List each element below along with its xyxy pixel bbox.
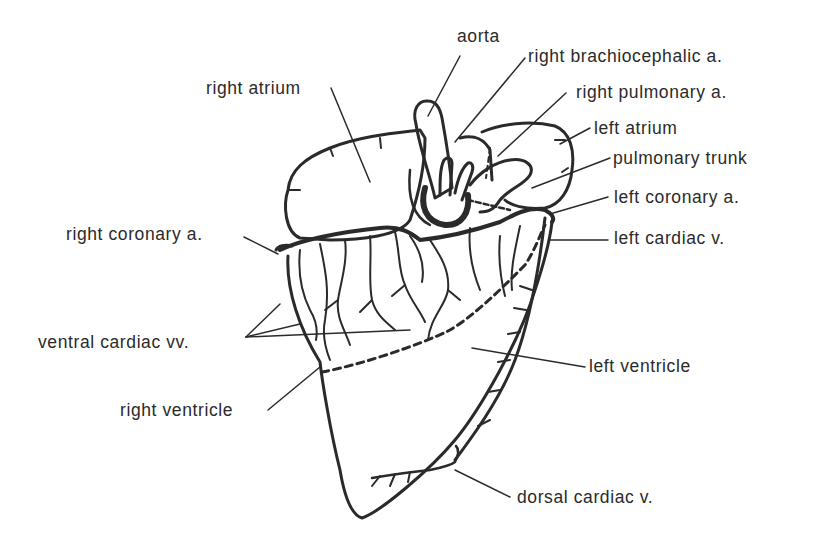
label-right-coronary-a: right coronary a. [66,226,203,244]
label-right-brachiocephalic-a: right brachiocephalic a. [528,48,722,66]
pulmonary-trunk-outline [470,160,531,212]
label-ventral-cardiac-vv: ventral cardiac vv. [38,334,189,352]
leader-lines [244,56,610,497]
ventral-cardiac-veins [299,226,520,360]
label-right-ventricle: right ventricle [120,402,233,420]
label-left-coronary-a: left coronary a. [614,189,739,207]
label-pulmonary-trunk: pulmonary trunk [613,150,747,168]
heart-diagram: aorta right brachiocephalic a. right pul… [0,0,813,542]
label-left-ventricle: left ventricle [589,358,691,376]
label-left-atrium: left atrium [594,120,677,138]
label-right-pulmonary-a: right pulmonary a. [576,84,727,102]
label-right-atrium: right atrium [206,80,301,98]
label-left-cardiac-v: left cardiac v. [614,230,725,248]
label-aorta: aorta [457,28,500,46]
label-dorsal-cardiac-v: dorsal cardiac v. [517,489,653,507]
